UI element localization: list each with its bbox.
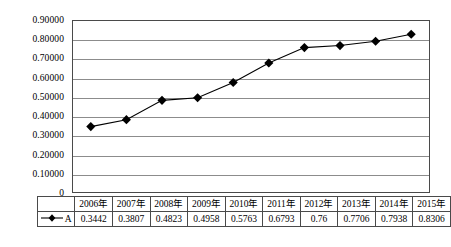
table-value-cell: 0.8306 [413, 212, 451, 227]
data-point-marker [157, 96, 166, 105]
table-value-cell: 0.4823 [150, 212, 188, 227]
table-year-header: 2015年 [413, 197, 451, 212]
y-tick-label: 0.30000 [0, 130, 68, 140]
table-value-cell: 0.76 [300, 212, 338, 227]
table-year-header: 2008年 [150, 197, 188, 212]
table-header-row: 2006年2007年2008年2009年2010年2011年2012年2013年… [38, 197, 451, 212]
table-value-cell: 0.7938 [375, 212, 413, 227]
data-point-marker [86, 122, 95, 131]
y-tick-label: 0.20000 [0, 150, 68, 160]
diamond-marker-icon [41, 213, 63, 226]
y-tick-label: 0.60000 [0, 73, 68, 83]
table-year-header: 2014年 [375, 197, 413, 212]
y-tick-label: 0.70000 [0, 53, 68, 63]
series-line-a [91, 34, 411, 126]
y-tick-label: 0.50000 [0, 92, 68, 102]
y-tick-label: 0.10000 [0, 169, 68, 179]
data-point-marker [264, 58, 273, 67]
plot-area [72, 20, 430, 193]
table-year-header: 2009年 [188, 197, 226, 212]
table-value-cell: 0.7706 [338, 212, 376, 227]
legend-series-cell: A [38, 212, 75, 227]
series-a-line [73, 21, 429, 192]
data-point-marker [371, 37, 380, 46]
table-year-header: 2007年 [113, 197, 151, 212]
chart-data-table: 2006年2007年2008年2009年2010年2011年2012年2013年… [37, 196, 451, 227]
data-point-marker [300, 43, 309, 52]
table-year-header: 2011年 [263, 197, 300, 212]
table-year-header: 2006年 [75, 197, 113, 212]
table-year-header: 2012年 [300, 197, 338, 212]
data-point-marker [335, 41, 344, 50]
data-point-marker [193, 93, 202, 102]
table-value-cell: 0.6793 [263, 212, 300, 227]
data-point-marker [122, 115, 131, 124]
data-point-marker [407, 30, 416, 39]
y-tick-label: 0.80000 [0, 34, 68, 44]
table-value-cell: 0.4958 [188, 212, 226, 227]
y-tick-label: 0.90000 [0, 15, 68, 25]
data-point-marker [229, 78, 238, 87]
table-year-header: 2013年 [338, 197, 376, 212]
table-value-row: A 0.34420.38070.48230.49580.57630.67930.… [38, 212, 451, 227]
legend-series-label: A [65, 214, 72, 225]
table-value-cell: 0.3442 [75, 212, 113, 227]
legend-header-blank [38, 197, 75, 212]
table-year-header: 2010年 [225, 197, 263, 212]
table-value-cell: 0.3807 [113, 212, 151, 227]
chart-figure: 0.900000.800000.700000.600000.500000.400… [0, 0, 451, 247]
table-value-cell: 0.5763 [225, 212, 263, 227]
y-tick-label: 0.40000 [0, 111, 68, 121]
